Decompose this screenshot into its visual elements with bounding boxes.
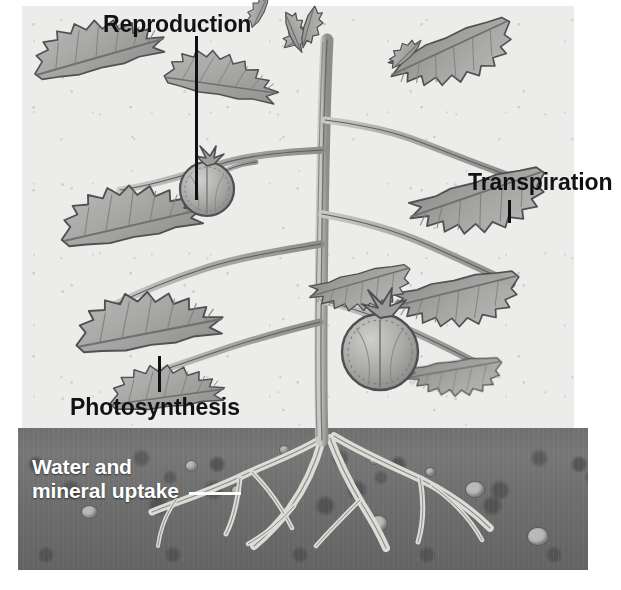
illustration-canvas: Reproduction Transpiration Photosynthesi… — [0, 0, 621, 590]
pebble — [186, 461, 197, 471]
label-water-line-1: Water and — [32, 455, 179, 479]
leader-line-water-mineral-uptake — [189, 492, 241, 495]
leader-line-transpiration — [508, 200, 511, 223]
pebble — [528, 528, 548, 545]
pebble — [426, 468, 435, 476]
pebble — [280, 446, 289, 454]
label-water-line-2: mineral uptake — [32, 479, 179, 503]
pebble — [82, 506, 97, 518]
label-transpiration: Transpiration — [468, 171, 612, 194]
leader-line-photosynthesis — [158, 356, 161, 392]
pebble — [466, 482, 484, 497]
label-photosynthesis: Photosynthesis — [70, 396, 240, 419]
leader-line-reproduction — [195, 36, 198, 200]
label-water-mineral-uptake: Water and mineral uptake — [32, 455, 179, 502]
label-reproduction: Reproduction — [103, 13, 251, 36]
pebble — [370, 456, 378, 464]
paper-texture — [22, 6, 574, 436]
illustration-panel — [22, 6, 574, 436]
pebble — [370, 516, 387, 531]
